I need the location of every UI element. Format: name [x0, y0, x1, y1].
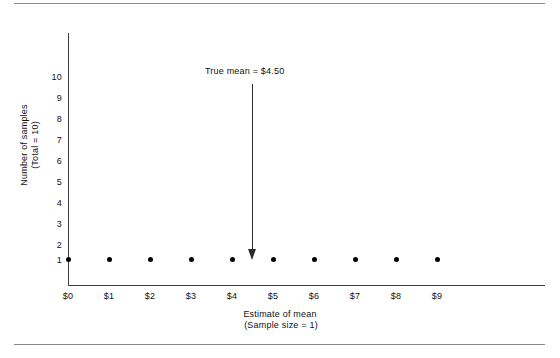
- y-tick-label: 10: [46, 73, 62, 82]
- x-axis-line: [68, 285, 545, 286]
- true-mean-annotation-label: True mean = $4.50: [205, 66, 284, 77]
- y-tick-label: 6: [46, 157, 62, 166]
- y-tick-label: 7: [46, 136, 62, 145]
- x-tick-label: $1: [94, 291, 124, 301]
- y-tick-label: 1: [46, 256, 62, 265]
- x-tick-label: $6: [299, 291, 329, 301]
- data-point: [271, 257, 276, 262]
- top-divider-rule: [14, 3, 545, 4]
- data-point: [230, 257, 235, 262]
- x-tick-label: $5: [258, 291, 288, 301]
- x-tick-label: $9: [422, 291, 452, 301]
- x-tick-label: $3: [176, 291, 206, 301]
- x-axis-title-line2: (Sample size = 1): [0, 320, 560, 331]
- y-axis-line: [68, 33, 69, 286]
- data-point: [353, 257, 358, 262]
- data-point: [148, 257, 153, 262]
- x-tick-label: $8: [381, 291, 411, 301]
- data-point: [189, 257, 194, 262]
- y-axis-title: Number of samples (Total = 10): [19, 104, 41, 185]
- y-tick-label: 2: [46, 241, 62, 250]
- true-mean-arrow-shaft: [252, 84, 253, 250]
- data-point: [394, 257, 399, 262]
- down-arrow-icon: [248, 249, 256, 260]
- x-tick-label: $7: [340, 291, 370, 301]
- y-axis-title-line2: (Total = 10): [30, 104, 41, 185]
- chart-figure: 10 9 8 7 6 5 4 3 2 1 Number of samples (…: [0, 0, 560, 358]
- y-tick-label: 3: [46, 220, 62, 229]
- x-tick-label: $4: [217, 291, 247, 301]
- x-axis-title-line1: Estimate of mean: [0, 309, 560, 320]
- data-point: [107, 257, 112, 262]
- y-tick-label: 9: [46, 94, 62, 103]
- y-tick-label: 8: [46, 115, 62, 124]
- y-tick-label: 5: [46, 178, 62, 187]
- data-point: [435, 257, 440, 262]
- bottom-divider-rule: [14, 344, 545, 345]
- x-tick-label: $2: [135, 291, 165, 301]
- data-point: [312, 257, 317, 262]
- x-tick-label: $0: [53, 291, 83, 301]
- y-tick-label: 4: [46, 199, 62, 208]
- y-tick-label-group: 10 9 8 7 6 5 4 3 2 1: [46, 0, 62, 358]
- data-point: [66, 257, 71, 262]
- y-axis-title-line1: Number of samples: [19, 104, 30, 185]
- x-axis-title: Estimate of mean (Sample size = 1): [0, 309, 560, 331]
